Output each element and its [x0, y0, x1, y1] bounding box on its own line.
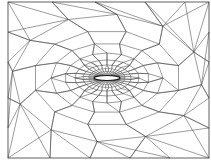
mesh-edge [134, 97, 142, 105]
mesh-edge [118, 82, 123, 83]
mesh-edge [92, 83, 94, 84]
mesh-edge [96, 73, 97, 74]
mesh-edge [131, 78, 139, 79]
mesh-edge [83, 74, 84, 77]
mesh-edge [109, 72, 111, 74]
mesh-edge [107, 88, 109, 92]
mesh-edge [120, 69, 125, 71]
mesh-edge [99, 61, 102, 66]
mesh-edge [120, 83, 122, 84]
mesh-edge [57, 91, 71, 94]
mesh-edge [68, 20, 87, 32]
mesh-edge [124, 74, 130, 75]
mesh-edge [120, 72, 122, 73]
mesh-edge [159, 90, 178, 112]
mesh-edge [143, 63, 157, 66]
mesh-edge [51, 78, 66, 82]
mesh-edge [107, 60, 115, 61]
mesh-edge [121, 55, 134, 59]
mesh-edge [135, 66, 144, 70]
mesh-edge [110, 84, 112, 87]
mesh-edge [98, 73, 100, 74]
mesh-edge [113, 83, 115, 84]
mesh-edge [118, 84, 121, 85]
mesh-edge [113, 84, 116, 87]
mesh-edge [51, 130, 97, 142]
mesh-edge [94, 84, 97, 85]
mesh-edge [75, 78, 76, 83]
mesh-edge [105, 69, 106, 72]
mesh-edge [114, 81, 118, 82]
mesh-edge [13, 66, 36, 72]
mesh-edge [194, 52, 202, 85]
mesh-edge [93, 66, 97, 67]
mesh-edge [93, 44, 95, 55]
mesh-edge [130, 79, 131, 82]
mesh-edge [134, 59, 143, 66]
mesh-edge [83, 78, 89, 79]
mesh-edge [158, 63, 179, 66]
mesh-edge [115, 73, 117, 74]
mesh-edge [134, 91, 143, 98]
mesh-edge [76, 73, 84, 74]
mesh-edge [120, 44, 142, 51]
mesh-edge [75, 77, 83, 78]
mesh-diagram [0, 0, 211, 165]
mesh-edge [80, 97, 93, 101]
mesh-edge [93, 89, 97, 90]
mesh-edge [179, 52, 194, 66]
airfoil-shape [94, 76, 120, 81]
mesh-edge [118, 73, 123, 74]
mesh-edge [55, 105, 72, 112]
mesh-edge [86, 85, 89, 87]
mesh-edge [109, 82, 111, 84]
mesh-edge [30, 20, 68, 41]
mesh-edge [117, 14, 126, 31]
mesh-edge [51, 112, 55, 130]
mesh-edge [138, 78, 139, 83]
mesh-edge [110, 69, 112, 72]
mesh-edge [55, 112, 88, 125]
mesh-edge [113, 72, 115, 73]
mesh-edge [121, 97, 134, 101]
mesh-edge [130, 65, 135, 69]
mesh-edge [126, 32, 159, 44]
mesh-edge [110, 82, 112, 84]
mesh-edge [118, 70, 121, 71]
mesh-edge [90, 142, 97, 158]
mesh-edge [163, 26, 194, 52]
mesh-edge [76, 82, 84, 83]
mesh-edge [90, 81, 95, 82]
mesh-edge [96, 86, 99, 87]
mesh-edge [130, 74, 131, 77]
mesh-edge [112, 69, 115, 70]
mesh-edge [20, 104, 51, 130]
mesh-edge [146, 137, 170, 159]
mesh-edge [115, 55, 121, 61]
mesh-edge [57, 63, 71, 66]
mesh-edge [115, 83, 118, 85]
mesh-edge [84, 72, 86, 75]
mesh-edge [84, 62, 91, 65]
mesh-edge [99, 60, 107, 61]
mesh-edge [146, 116, 184, 137]
mesh-edge [99, 95, 107, 96]
mesh-edge [112, 65, 117, 66]
mesh-edge [120, 102, 122, 113]
mesh-edge [202, 32, 210, 85]
mesh-edge [36, 63, 57, 66]
mesh-edge [36, 90, 57, 93]
mesh-edge [89, 77, 94, 78]
mesh-edge [96, 70, 99, 71]
mesh-edge [13, 71, 21, 104]
mesh-edge [115, 66, 117, 69]
mesh-edge [134, 51, 142, 59]
mesh-edge [90, 73, 92, 75]
mesh-edge [89, 75, 90, 77]
mesh-edge [148, 78, 163, 82]
mesh-edge [122, 81, 124, 83]
mesh-edge [97, 66, 99, 69]
mesh-edge [76, 83, 79, 87]
mesh-edge [57, 51, 73, 63]
mesh-edge [120, 78, 125, 79]
